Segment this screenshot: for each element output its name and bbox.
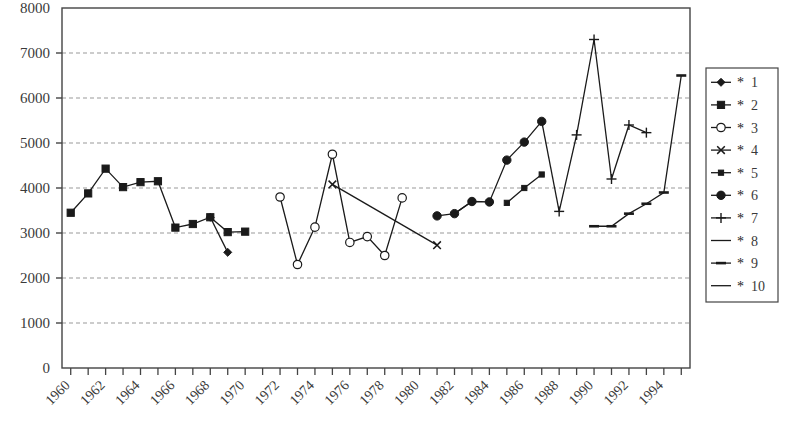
- datapoint-s3-1973: [293, 260, 301, 268]
- datapoint-s5-1987: [539, 172, 544, 177]
- y-tick-label-2000: 2000: [20, 270, 50, 286]
- chart-container: 010002000300040005000600070008000 196019…: [0, 0, 785, 439]
- datapoint-s3-1976: [346, 238, 354, 246]
- legend-label-1: 1: [751, 75, 758, 90]
- legend-label-6: 6: [751, 188, 758, 203]
- datapoint-s2-1964: [137, 179, 144, 186]
- y-tick-label-1000: 1000: [20, 315, 50, 331]
- legend-label-8: 8: [751, 234, 758, 249]
- datapoint-s5-1986: [522, 185, 527, 190]
- line-chart: 010002000300040005000600070008000 196019…: [0, 0, 785, 439]
- datapoint-s6-1981: [433, 212, 441, 220]
- legend-label-7: 7: [751, 211, 758, 226]
- datapoint-s3-1979: [398, 194, 406, 202]
- datapoint-s2-1970: [242, 228, 249, 235]
- legend-star-9: *: [737, 256, 744, 271]
- legend-star-10: *: [737, 279, 744, 294]
- y-tick-label-4000: 4000: [20, 180, 50, 196]
- legend-star-1: *: [737, 75, 744, 90]
- datapoint-s2-1966: [172, 224, 179, 231]
- legend-star-2: *: [737, 98, 744, 113]
- datapoint-s6-1985: [503, 156, 511, 164]
- legend-label-4: 4: [751, 143, 758, 158]
- y-tick-label-3000: 3000: [20, 225, 50, 241]
- legend-label-9: 9: [751, 256, 758, 271]
- datapoint-s2-1962: [102, 165, 109, 172]
- datapoint-s2-1963: [119, 184, 126, 191]
- datapoint-s3-1978: [381, 251, 389, 259]
- legend-star-5: *: [737, 166, 744, 181]
- datapoint-s3-1975: [328, 150, 336, 158]
- legend-marker-square: [717, 101, 724, 108]
- legend-star-4: *: [737, 143, 744, 158]
- legend-label-10: 10: [751, 279, 765, 294]
- y-tick-label-8000: 8000: [20, 0, 50, 16]
- datapoint-s5-1985: [504, 200, 509, 205]
- y-tick-label-7000: 7000: [20, 45, 50, 61]
- legend-label-3: 3: [751, 121, 758, 136]
- chart-legend: *1*2*3*4*5*6*7*8*9*10: [706, 68, 778, 302]
- datapoint-s2-1969: [224, 229, 231, 236]
- legend-label-2: 2: [751, 98, 758, 113]
- datapoint-s3-1974: [311, 223, 319, 231]
- legend-star-7: *: [737, 211, 744, 226]
- y-axis-tick-labels: 010002000300040005000600070008000: [20, 0, 50, 376]
- y-tick-label-6000: 6000: [20, 90, 50, 106]
- y-tick-label-0: 0: [43, 360, 51, 376]
- datapoint-s2-1967: [189, 220, 196, 227]
- y-tick-label-5000: 5000: [20, 135, 50, 151]
- legend-label-5: 5: [751, 166, 758, 181]
- legend-marker-circle-filled: [717, 191, 725, 199]
- datapoint-s2-1960: [67, 209, 74, 216]
- datapoint-s2-1968: [207, 214, 214, 221]
- legend-marker-small-square: [718, 170, 723, 175]
- legend-star-8: *: [737, 234, 744, 249]
- datapoint-s3-1972: [276, 193, 284, 201]
- legend-marker-circle-open: [717, 123, 725, 131]
- datapoint-s2-1961: [85, 190, 92, 197]
- datapoint-s6-1984: [485, 198, 493, 206]
- datapoint-s3-1977: [363, 232, 371, 240]
- legend-star-3: *: [737, 121, 744, 136]
- datapoint-s2-1965: [154, 178, 161, 185]
- datapoint-s6-1986: [520, 138, 528, 146]
- legend-star-6: *: [737, 188, 744, 203]
